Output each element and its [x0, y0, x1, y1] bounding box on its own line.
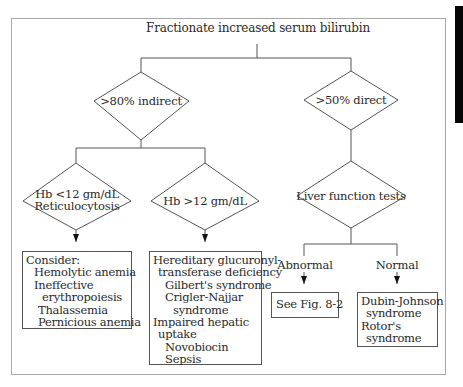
outcome-line: syndrome — [361, 332, 434, 344]
outcome-line: Sepsis — [153, 353, 258, 365]
decision-indirect-label: >80% indirect — [100, 95, 182, 108]
outcome-hereditary-box: Hereditary glucuronyl- transferase defic… — [149, 251, 262, 365]
outcome-line: transferase deficiency — [153, 266, 258, 278]
decision-direct-label: >50% direct — [315, 94, 386, 107]
branch-label-abnormal: Abnormal — [277, 259, 332, 272]
outcome-line: syndrome — [361, 307, 434, 319]
outcome-line: uptake — [153, 328, 258, 340]
branch-label-normal: Normal — [376, 259, 419, 272]
decision-lft-label: Liver function tests — [296, 190, 405, 203]
outcome-see-fig-box: See Fig. 8-2 — [271, 292, 339, 318]
decision-hb-low-label-line2: Reticulocytosis — [34, 200, 119, 213]
diagram-title: Fractionate increased serum bilirubin — [146, 22, 370, 35]
outcome-line: Hemolytic anemia — [26, 266, 128, 278]
outcome-line: Crigler-Najjar — [153, 291, 258, 303]
outcome-line: Pernicious anemia — [26, 316, 128, 328]
decision-hb-high-label: Hb >12 gm/dL — [163, 195, 247, 208]
see-fig-reference: See Fig. 8-2 — [276, 298, 334, 310]
outcome-line: erythropoiesis — [26, 291, 128, 303]
outcome-consider-box: Consider: Hemolytic anemia Ineffective e… — [22, 251, 132, 329]
outcome-dubin-box: Dubin-Johnson syndrome Rotor's syndrome — [357, 292, 438, 347]
